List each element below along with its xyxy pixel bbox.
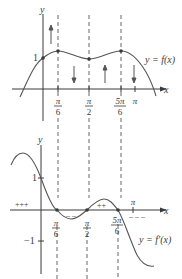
bottom-tick-pi: π <box>131 197 136 207</box>
bottom-tick-pi-6-num: π <box>54 218 59 228</box>
zero-5pi-6 <box>116 208 120 212</box>
top-tick-pi-2-den: 2 <box>87 107 92 117</box>
bottom-tick-5pi-6-num: 5π <box>112 215 122 225</box>
point-y-intercept <box>41 56 45 60</box>
sign-positive-right: ++ <box>97 201 107 210</box>
bottom-curve-label: y = f′(x) <box>138 234 172 246</box>
top-tick-pi-6-den: 6 <box>56 107 61 117</box>
sign-negative-far-right: – – – <box>128 212 146 221</box>
top-graph: y x 1 y = f(x) π 6 π 2 5π 6 π <box>12 4 176 121</box>
zero-pi-2 <box>85 208 89 212</box>
bottom-tick-pi-2-den: 2 <box>85 229 90 239</box>
top-x-label: x <box>163 84 169 95</box>
dashed-guides <box>57 15 121 279</box>
diagram-canvas: y x 1 y = f(x) π 6 π 2 5π 6 π y x 1 <box>0 0 182 279</box>
arrow-down-icon <box>72 78 76 83</box>
top-y-tick-1: 1 <box>33 52 38 63</box>
bottom-y-tick-1: 1 <box>32 172 37 183</box>
bottom-tick-pi-6-den: 6 <box>54 229 59 239</box>
top-tick-pi-6-num: π <box>56 96 61 106</box>
point-max-pi-6 <box>56 49 60 53</box>
bottom-x-label: x <box>163 205 169 216</box>
arrow-down-icon <box>132 78 136 83</box>
point-min-pi-2 <box>87 57 91 61</box>
top-y-label: y <box>39 4 45 15</box>
sign-positive-left: +++ <box>15 200 29 209</box>
top-tick-pi: π <box>133 96 138 106</box>
bottom-tick-pi-2-num: π <box>85 218 90 228</box>
bottom-y-label: y <box>37 134 43 145</box>
top-tick-5pi-6-den: 6 <box>118 107 123 117</box>
bottom-graph: y x 1 −1 y = f′(x) +++ – – ++ – – – π 6 … <box>10 134 172 274</box>
zero-pi-6 <box>55 208 59 212</box>
arrow-up-icon <box>49 25 53 30</box>
sign-negative-middle: – – <box>65 211 77 220</box>
top-tick-5pi-6-num: 5π <box>115 96 125 106</box>
top-tick-pi-2-num: π <box>87 96 92 106</box>
bottom-y-tick-neg1: −1 <box>24 235 35 246</box>
bottom-tick-5pi-6-den: 6 <box>115 226 120 236</box>
top-curve-label: y = f(x) <box>144 54 176 66</box>
point-max-5pi-6 <box>119 49 123 53</box>
arrow-up-icon <box>103 65 107 70</box>
